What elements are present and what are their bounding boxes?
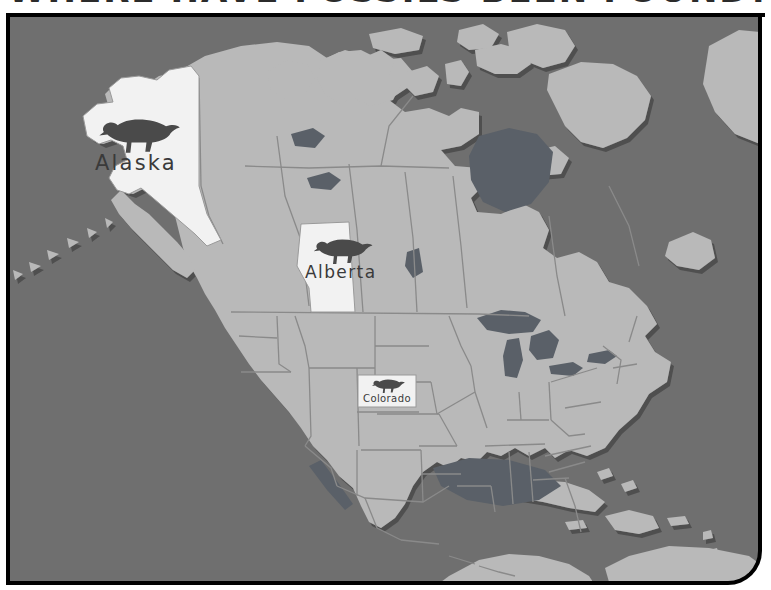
label-alberta: Alberta — [305, 262, 376, 282]
label-alaska: Alaska — [95, 151, 177, 175]
title-band: WHERE HAVE FOSSILS BEEN FOUND? — [0, 0, 771, 13]
map-canvas[interactable]: Alaska Alberta Colorado — [9, 16, 760, 582]
map-page: WHERE HAVE FOSSILS BEEN FOUND? — [0, 0, 771, 590]
title-band-inner: WHERE HAVE FOSSILS BEEN FOUND? — [8, 0, 763, 13]
title-divider — [6, 13, 765, 17]
label-colorado: Colorado — [363, 393, 411, 404]
page-title: WHERE HAVE FOSSILS BEEN FOUND? — [8, 0, 763, 10]
north-america-map-svg: Alaska Alberta Colorado — [9, 16, 760, 582]
